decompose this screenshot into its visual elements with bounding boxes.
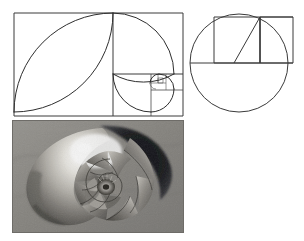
inscribed-square	[214, 17, 260, 63]
spiral-arc-2	[14, 13, 113, 112]
golden-rectangle-panel	[0, 0, 190, 120]
golden-ratio-figure: Golden Ratio and the Fibonacci Spiral	[0, 0, 304, 241]
photo-vignette	[12, 120, 184, 233]
circle-construction-diagram	[186, 0, 304, 120]
circle-construction-panel	[186, 0, 304, 120]
spiral-arc-6	[151, 89, 174, 112]
spiral-arc-3	[113, 13, 174, 74]
spiral-arc-7	[159, 74, 174, 89]
spiral-arc-5	[113, 74, 151, 112]
nautilus-shell-photo	[12, 120, 184, 233]
construction-diagonal	[234, 17, 260, 63]
nautilus-photo-panel	[12, 120, 184, 233]
spiral-arc-1	[14, 13, 113, 112]
golden-rectangle-diagram	[0, 0, 190, 120]
